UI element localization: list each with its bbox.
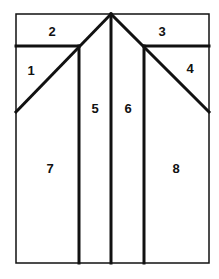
region-label-2: 2 — [48, 24, 55, 39]
region-label-7: 7 — [46, 161, 53, 176]
region-label-4: 4 — [186, 61, 194, 76]
region-diagram: 1 2 3 4 5 6 7 8 — [0, 0, 219, 279]
region-label-5: 5 — [91, 101, 98, 116]
region-label-8: 8 — [172, 161, 179, 176]
region-label-1: 1 — [27, 63, 34, 78]
region-label-3: 3 — [158, 24, 165, 39]
region-label-6: 6 — [124, 101, 131, 116]
